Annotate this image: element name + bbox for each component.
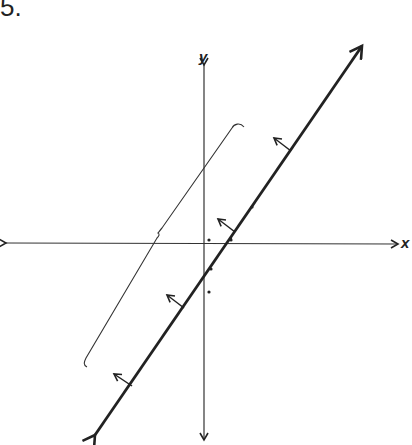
curly-brace [84, 124, 244, 367]
thick-line [95, 46, 362, 435]
normal-arrows [114, 138, 291, 386]
diagram-figure: 5. y x [0, 0, 412, 445]
data-points [207, 205, 253, 293]
x-axis [6, 243, 398, 244]
diagram-svg [0, 0, 412, 445]
